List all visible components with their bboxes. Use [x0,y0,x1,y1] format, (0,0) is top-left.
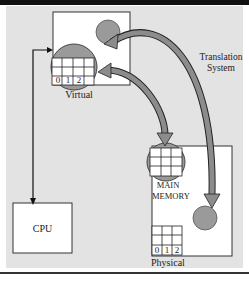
physical-page-circle [147,143,185,181]
physical-frame-number: 2 [172,245,182,256]
translation-system-label: Translation System [196,52,246,74]
cpu-label: CPU [13,223,72,234]
physical-frame-number: 1 [162,245,172,256]
main-memory-label-line1: MAIN [152,180,184,191]
main-memory-label: MAIN MEMORY [152,180,184,202]
cpu-virtual-connector [33,50,50,203]
virtual-page-number: 0 [53,75,63,86]
physical-label: Physical [151,257,191,268]
diagram-graphics [0,0,249,284]
virtual-page-number: 2 [74,75,84,86]
physical-frame-number: 0 [152,245,162,256]
translation-label-line2: System [196,63,246,74]
main-memory-label-line2: MEMORY [152,191,184,202]
arrowhead-icon [47,47,53,53]
physical-segment-circle [193,206,217,230]
translation-label-line1: Translation [196,52,246,63]
virtual-page-number: 1 [63,75,73,86]
virtual-label: Virtual [59,89,99,100]
translation-arrow-inner [98,63,173,146]
